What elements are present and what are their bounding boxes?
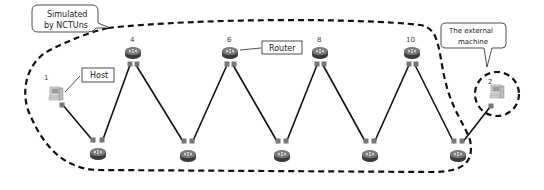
host-label: Host <box>90 71 108 80</box>
external-callout-line1: The external <box>448 27 493 35</box>
simulation-boundary <box>25 20 471 172</box>
router-icon[interactable] <box>312 47 328 59</box>
external-callout-line2: machine <box>458 38 488 46</box>
router-icon[interactable] <box>404 47 420 59</box>
node-id-1: 1 <box>44 74 48 82</box>
simulated-callout-line1: Simulated <box>47 10 87 19</box>
router-icon[interactable] <box>180 150 196 162</box>
external-host-icon[interactable] <box>490 85 504 98</box>
node-id-6: 6 <box>227 36 232 44</box>
links <box>62 65 490 143</box>
host-icon[interactable] <box>49 87 63 100</box>
simulated-callout-line2: by NCTUns <box>44 21 88 30</box>
ports <box>60 62 494 144</box>
router-icon[interactable] <box>125 47 141 59</box>
network-diagram: 1 4 6 8 10 2 Host Router Simulated by NC… <box>0 0 544 190</box>
router-icon[interactable] <box>222 47 238 59</box>
router-label: Router <box>269 44 296 53</box>
node-id-4: 4 <box>130 36 135 44</box>
router-icon[interactable] <box>90 148 106 160</box>
router-icon[interactable] <box>450 150 466 162</box>
router-icon[interactable] <box>274 150 290 162</box>
router-icon[interactable] <box>362 150 378 162</box>
node-id-10: 10 <box>406 36 415 44</box>
node-id-8: 8 <box>317 36 321 44</box>
node-id-2: 2 <box>488 78 492 86</box>
